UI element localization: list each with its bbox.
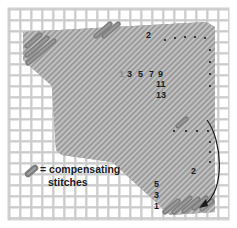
stitch-entry-dot <box>207 130 209 132</box>
stitch-entry-dot <box>164 39 166 41</box>
stitch-entry-dot <box>173 130 175 132</box>
stitch-entry-dot <box>184 36 186 38</box>
stitch-entry-dot <box>209 73 211 75</box>
compensating-stitch-swatch-icon <box>28 168 35 174</box>
label-bottom-2: 2 <box>191 166 196 176</box>
label-top-13: 13 <box>156 90 166 100</box>
stitch-entry-dot <box>194 36 196 38</box>
label-bottom-3: 3 <box>154 190 159 200</box>
stitch-entry-dot <box>209 151 211 153</box>
stitch-entry-dot <box>174 37 176 39</box>
label-top-5: 5 <box>138 69 143 79</box>
legend-text-line1: = compensating <box>40 163 120 175</box>
label-top-7: 7 <box>149 69 154 79</box>
stitch-entry-dot <box>209 161 211 163</box>
stitch-entry-dot <box>209 141 211 143</box>
label-bottom-5: 5 <box>154 179 159 189</box>
stitch-entry-dot <box>209 61 211 63</box>
stitch-entry-dot <box>196 130 198 132</box>
stitch-entry-dot <box>204 37 206 39</box>
stitch <box>0 0 2 228</box>
label-bottom-1: 1 <box>154 201 159 211</box>
label-top-1: 1 <box>119 69 124 79</box>
stitch <box>235 0 236 228</box>
stitch-entry-dot <box>209 49 211 51</box>
stitch-entry-dot <box>209 85 211 87</box>
diagram-canvas: 2 1 3 5 7 9 11 13 2 5 3 1 = compensating… <box>0 0 236 228</box>
stitch <box>230 0 237 228</box>
stitch-diagram: 2 1 3 5 7 9 11 13 2 5 3 1 = compensating… <box>0 0 236 228</box>
label-top-3: 3 <box>127 69 132 79</box>
label-top-11: 11 <box>156 79 166 89</box>
label-top-2: 2 <box>146 30 151 40</box>
legend-text-line2: stitches <box>48 176 88 188</box>
label-top-9: 9 <box>158 69 163 79</box>
stitch <box>0 0 8 228</box>
stitch-entry-dot <box>185 130 187 132</box>
